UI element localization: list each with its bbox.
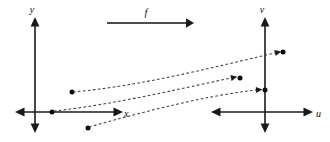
x-axis-arrowhead-right: [114, 108, 124, 117]
image-point-c: [263, 88, 268, 93]
mapping-arrow-head: [186, 18, 194, 27]
v-axis-arrowhead-bottom: [261, 124, 270, 134]
y-axis-arrowhead-bottom: [31, 124, 40, 134]
mapping-curve-b: [54, 78, 231, 111]
y-axis-arrowhead-top: [31, 17, 40, 27]
mapping-arrow-group: f: [107, 7, 194, 28]
u-axis-arrowhead-left: [211, 108, 221, 117]
codomain-plane-group: v u: [211, 4, 321, 133]
u-axis-label: u: [316, 108, 321, 119]
function-mapping-figure: f y x v: [0, 0, 330, 142]
image-point-b: [238, 76, 243, 81]
mapping-curve-a: [73, 53, 275, 92]
mapping-function-label: f: [145, 7, 150, 18]
domain-point-b: [50, 110, 55, 115]
dash-arrowhead-b: [230, 74, 237, 81]
diagram-root: f y x v: [0, 0, 330, 142]
u-axis-arrowhead-right: [304, 108, 314, 117]
dash-arrowhead-c: [256, 86, 263, 93]
v-axis-arrowhead-top: [261, 17, 270, 27]
y-axis-label: y: [29, 4, 35, 15]
x-axis-arrowhead-left: [15, 108, 25, 117]
dashed-mappings-group: [54, 48, 282, 127]
image-point-a: [281, 50, 286, 55]
v-axis-label: v: [260, 4, 265, 15]
